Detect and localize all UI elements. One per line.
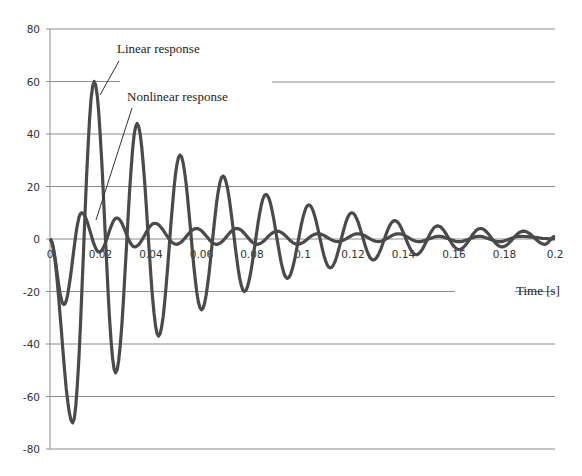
x-tick-label: 0.2 [547, 248, 564, 260]
y-tick-label: 80 [27, 23, 40, 35]
axis-title-bg [455, 280, 515, 300]
x-tick-label: 0.12 [341, 248, 364, 260]
x-axis-tick-labels: 00.020.040.060.080.10.120.140.160.180.2 [47, 248, 564, 260]
y-tick-label: -40 [23, 338, 40, 350]
y-tick-label: -80 [23, 443, 40, 455]
annotation-bg [128, 56, 276, 76]
annotation-nonlinear-response: Nonlinear response [127, 89, 228, 104]
x-tick-label: 0.18 [493, 248, 516, 260]
y-tick-label: -60 [23, 391, 40, 403]
annotation-linear-response: Linear response [117, 41, 200, 56]
y-tick-label: 60 [27, 76, 40, 88]
y-tick-label: -20 [23, 286, 40, 298]
y-tick-label: 0 [33, 233, 40, 245]
x-axis-title: Time [s] [516, 283, 560, 298]
annotation-linear-leader [100, 61, 119, 95]
y-tick-label: 40 [27, 128, 40, 140]
y-tick-label: 20 [27, 181, 40, 193]
gridlines [46, 29, 555, 449]
y-axis-tick-labels: 806040200-20-40-60-80 [23, 23, 40, 455]
line-chart: 806040200-20-40-60-80 00.020.040.060.080… [0, 0, 582, 476]
